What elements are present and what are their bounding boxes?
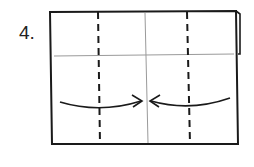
paper-outline — [50, 11, 238, 144]
fold-diagram — [0, 0, 254, 167]
vertical-center-crease — [145, 13, 148, 143]
right-fold-line-dashed — [187, 12, 190, 144]
left-fold-arrow — [60, 101, 141, 108]
left-arrowhead-icon — [132, 95, 142, 107]
right-fold-arrow — [151, 98, 230, 106]
left-fold-line-dashed — [98, 12, 100, 144]
right-arrowhead-icon — [150, 95, 160, 107]
horizontal-crease — [54, 54, 234, 56]
